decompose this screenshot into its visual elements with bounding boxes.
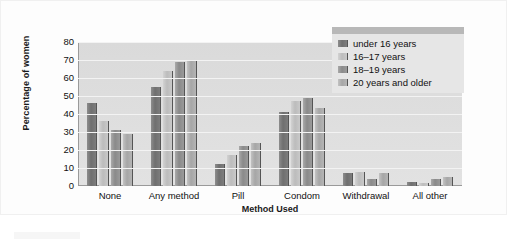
bar [343,173,353,186]
gridline [78,96,462,97]
bar [227,155,237,186]
legend-item[interactable]: 18–19 years [338,63,460,76]
y-axis-tick-labels: 80706050403020100 [48,36,74,188]
legend-header-bar [332,27,464,34]
bar [239,146,249,186]
gridline [78,114,462,115]
bar [355,172,365,186]
legend-swatch-icon [338,79,348,86]
bar [367,179,377,186]
y-axis-tick-label: 10 [63,163,74,173]
y-axis-tick-label: 30 [63,127,74,137]
bar [99,121,109,186]
x-axis-tick-label: None [78,190,142,201]
bar [87,103,97,186]
y-axis-tick-label: 0 [69,181,74,191]
x-axis-tick-label: Any method [142,190,206,201]
bar [111,130,121,186]
legend-item[interactable]: 20 years and older [338,76,460,89]
legend-items: under 16 years16–17 years18–19 years20 y… [332,34,464,89]
y-axis-tick-label: 60 [63,73,74,83]
legend-label: 16–17 years [353,52,405,62]
bar [303,98,313,186]
y-axis-tick-label: 80 [63,37,74,47]
legend-label: 20 years and older [353,78,432,88]
x-axis-tick-label: Condom [270,190,334,201]
gridline [78,150,462,151]
caption-artifact [14,232,80,239]
x-axis-title: Method Used [78,204,462,214]
x-axis-tick-label: Pill [206,190,270,201]
bar [379,173,389,186]
y-axis-title: Percentage of women [21,23,31,143]
legend-swatch-icon [338,53,348,60]
legend-label: under 16 years [353,39,416,49]
bar [315,108,325,186]
x-axis-tick-label: Withdrawal [334,190,398,201]
bar [443,177,453,186]
legend: under 16 years16–17 years18–19 years20 y… [332,27,464,93]
y-axis-tick-label: 50 [63,91,74,101]
x-axis-tick-labels: NoneAny methodPillCondomWithdrawalAll ot… [78,190,462,201]
legend-item[interactable]: 16–17 years [338,50,460,63]
chart-screenshot: Percentage of women 80706050403020100 No… [0,0,507,249]
bar [123,134,133,186]
legend-swatch-icon [338,66,348,73]
gridline [78,168,462,169]
bar [151,87,161,186]
legend-label: 18–19 years [353,65,405,75]
gridline [78,132,462,133]
bar [407,182,417,186]
bar [419,183,429,186]
y-axis-tick-label: 20 [63,145,74,155]
legend-swatch-icon [338,40,348,47]
x-axis-tick-label: All other [398,190,462,201]
y-axis-tick-label: 40 [63,109,74,119]
y-axis-tick-label: 70 [63,55,74,65]
legend-item[interactable]: under 16 years [338,37,460,50]
bar [431,179,441,186]
